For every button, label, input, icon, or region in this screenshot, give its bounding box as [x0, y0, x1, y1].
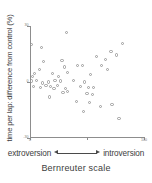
x-tick-label: 100: [141, 139, 147, 143]
x-axis-label: Bernreuter scale: [0, 163, 152, 173]
data-point: [32, 85, 35, 88]
data-point: [52, 87, 55, 90]
data-point: [30, 43, 33, 46]
data-point: [66, 71, 69, 74]
data-point: [30, 79, 33, 82]
arrow-head-right: [96, 150, 100, 154]
y-tick-label: 0: [27, 80, 29, 84]
data-point: [60, 59, 63, 62]
data-point: [31, 75, 34, 78]
data-point: [88, 101, 91, 104]
data-point: [100, 64, 103, 67]
arrow-shaft: [57, 153, 97, 154]
data-point: [39, 86, 42, 89]
data-point: [75, 100, 78, 103]
data-point: [104, 58, 107, 61]
data-point: [42, 60, 45, 63]
extroversion-label: extroversion: [8, 149, 51, 158]
axis-direction-annotation: extroversion introversion: [0, 146, 152, 160]
x-tick-mark: [87, 137, 88, 140]
data-point: [83, 80, 86, 83]
data-point: [87, 86, 90, 89]
data-point: [56, 84, 59, 87]
data-point: [106, 68, 109, 71]
data-point: [53, 79, 56, 82]
data-point: [35, 79, 38, 82]
data-point: [47, 80, 50, 83]
x-tick-label: 0: [29, 139, 31, 143]
data-point: [65, 31, 68, 34]
data-point: [48, 95, 51, 98]
scatter-plot-figure: time per lap: difference from control (%…: [0, 0, 152, 183]
data-point: [40, 46, 43, 49]
data-point: [59, 79, 62, 82]
data-point: [82, 110, 85, 113]
data-point: [110, 103, 113, 106]
data-point: [63, 65, 66, 68]
data-point: [115, 53, 118, 56]
data-point: [51, 72, 54, 75]
y-axis-label: time per lap: difference from control (%…: [5, 14, 14, 141]
data-point: [72, 79, 75, 82]
data-point: [79, 85, 82, 88]
data-point: [95, 55, 98, 58]
data-point: [109, 50, 112, 53]
data-point: [76, 64, 79, 67]
y-axis-label-wrapper: time per lap: difference from control (%…: [0, 14, 18, 142]
data-point: [99, 105, 102, 108]
data-point: [44, 84, 47, 87]
y-tick-label: -30: [23, 136, 28, 140]
data-point: [89, 73, 92, 76]
y-tick-label: 30: [25, 24, 29, 28]
data-point: [92, 86, 95, 89]
data-point: [57, 75, 60, 78]
data-point: [117, 117, 120, 120]
data-point: [61, 91, 64, 94]
plot-area: 300-30 0100: [30, 26, 144, 138]
introversion-label: introversion: [103, 149, 144, 158]
data-point: [38, 68, 41, 71]
double-headed-arrow-icon: [54, 149, 100, 157]
data-point: [85, 92, 88, 95]
data-point: [91, 93, 94, 96]
data-point: [66, 90, 69, 93]
data-point: [121, 42, 124, 45]
data-point: [81, 64, 84, 67]
